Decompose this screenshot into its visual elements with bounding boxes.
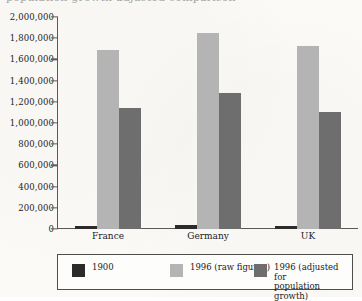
bar: [197, 33, 219, 229]
bar: [275, 226, 297, 229]
y-axis-tick-label: 0: [0, 224, 54, 234]
clipped-caption-text: population growth adjusted comparison: [6, 0, 236, 4]
y-axis-tick-mark: [51, 101, 58, 102]
bar: [219, 93, 241, 229]
bar-group: [58, 17, 158, 229]
y-axis-tick-label: 1,800,000: [0, 33, 54, 43]
legend-swatch: [254, 264, 267, 277]
legend-swatch: [72, 264, 85, 277]
y-axis-tick-mark: [51, 165, 58, 166]
chart-legend: 19001996 (raw figures)1996 (adjusted for…: [57, 254, 353, 290]
x-axis-category-label: France: [92, 231, 124, 241]
legend-item[interactable]: 1900: [72, 263, 114, 277]
bar-chart: 0200,000400,000600,000800,0001,000,0001,…: [0, 8, 362, 240]
legend-label: 1996 (adjusted for population growth): [274, 263, 352, 301]
y-axis-tick-label: 600,000: [0, 160, 54, 170]
y-axis-tick-label: 400,000: [0, 182, 54, 192]
y-axis-tick-mark: [51, 59, 58, 60]
bar: [297, 46, 319, 229]
bar-group: [158, 17, 258, 229]
bar: [119, 108, 141, 229]
clipped-caption-remnant: population growth adjusted comparison: [0, 0, 362, 7]
plot-area: [58, 17, 358, 229]
bar: [319, 112, 341, 229]
y-axis-tick-label: 1,000,000: [0, 118, 54, 128]
y-axis-tick-mark: [51, 207, 58, 208]
legend-items: 19001996 (raw figures)1996 (adjusted for…: [58, 255, 352, 289]
y-axis-tick-label: 2,000,000: [0, 12, 54, 22]
y-axis-tick-label: 1,600,000: [0, 54, 54, 64]
y-axis-tick-label: 1,200,000: [0, 97, 54, 107]
legend-item[interactable]: 1996 (adjusted for population growth): [254, 263, 352, 301]
y-axis-tick-label: 800,000: [0, 139, 54, 149]
x-axis-category-label: Germany: [187, 231, 229, 241]
legend-label: 1900: [92, 263, 114, 273]
y-axis-labels: 0200,000400,000600,000800,0001,000,0001,…: [0, 8, 54, 240]
bar: [75, 226, 97, 229]
y-axis-tick-mark: [51, 144, 58, 145]
y-axis-tick-label: 200,000: [0, 203, 54, 213]
y-axis-tick-mark: [51, 16, 58, 17]
y-axis-tick-mark: [51, 80, 58, 81]
y-axis-tick-mark: [51, 186, 58, 187]
bar: [175, 225, 197, 229]
bar: [97, 50, 119, 229]
x-axis-category-label: UK: [301, 231, 315, 241]
x-axis-category-labels: FranceGermanyUK: [58, 231, 358, 247]
legend-swatch: [170, 264, 183, 277]
y-axis-tick-mark: [51, 122, 58, 123]
y-axis-tick-mark: [51, 228, 58, 229]
bar-group: [258, 17, 358, 229]
y-axis-tick-label: 1,400,000: [0, 76, 54, 86]
y-axis-tick-mark: [51, 38, 58, 39]
